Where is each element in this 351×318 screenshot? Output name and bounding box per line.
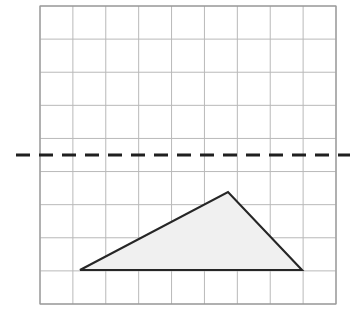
reflection-figure xyxy=(0,0,351,318)
worksheet-canvas: ) xyxy=(0,0,351,318)
